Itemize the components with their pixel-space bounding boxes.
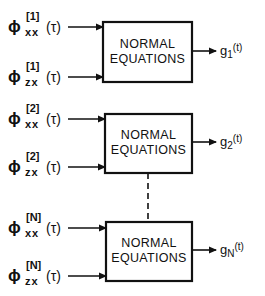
superscript: [2] (26, 102, 39, 114)
subscript: zx (25, 275, 39, 287)
block-label-line1: NORMAL (106, 236, 192, 251)
subscript: zx (25, 166, 39, 178)
phi-symbol: ϕ (8, 218, 21, 238)
superscript: [N] (26, 259, 41, 271)
output-label-2: g2(t) (220, 134, 242, 149)
subscript: zx (25, 76, 39, 88)
superscript: [1] (26, 10, 39, 22)
input-label-xx-n: ϕ [N] xx (τ) (6, 217, 68, 241)
superscript: [2] (26, 150, 39, 162)
input-label-zx-n: ϕ [N] zx (τ) (6, 265, 68, 289)
output-argument: (t) (234, 241, 243, 252)
output-label-n: gN(t) (220, 242, 244, 257)
input-label-zx-2: ϕ [2] zx (τ) (6, 156, 68, 180)
block-label-line2: EQUATIONS (105, 143, 192, 158)
tau-argument: (τ) (46, 268, 61, 284)
phi-symbol: ϕ (8, 157, 21, 177)
superscript: [1] (26, 60, 39, 72)
subscript: xx (25, 26, 39, 38)
phi-symbol: ϕ (8, 266, 21, 286)
input-label-xx-2: ϕ [2] xx (τ) (6, 108, 68, 132)
block-label-line1: NORMAL (105, 128, 192, 143)
block-label-line2: EQUATIONS (106, 251, 192, 266)
subscript: xx (25, 118, 39, 130)
tau-argument: (τ) (46, 111, 61, 127)
block-label-line2: EQUATIONS (103, 52, 192, 67)
input-label-xx-1: ϕ [1] xx (τ) (6, 16, 68, 40)
block-label-n: NORMAL EQUATIONS (106, 236, 192, 266)
block-label-2: NORMAL EQUATIONS (105, 128, 192, 158)
block-label-1: NORMAL EQUATIONS (103, 37, 192, 67)
superscript: [N] (26, 211, 41, 223)
block-label-line1: NORMAL (103, 37, 192, 52)
output-argument: (t) (233, 133, 242, 144)
phi-symbol: ϕ (8, 17, 21, 37)
tau-argument: (τ) (46, 19, 61, 35)
output-subscript: 2 (227, 140, 233, 151)
input-label-zx-1: ϕ [1] zx (τ) (6, 66, 68, 90)
tau-argument: (τ) (46, 159, 61, 175)
output-label-1: g1(t) (220, 43, 242, 58)
phi-symbol: ϕ (8, 109, 21, 129)
output-argument: (t) (233, 42, 242, 53)
output-subscript: 1 (227, 49, 233, 60)
tau-argument: (τ) (46, 220, 61, 236)
subscript: xx (25, 227, 39, 239)
phi-symbol: ϕ (8, 67, 21, 87)
tau-argument: (τ) (46, 69, 61, 85)
